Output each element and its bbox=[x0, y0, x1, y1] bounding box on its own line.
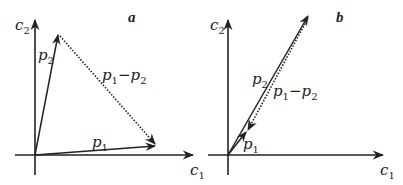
panel-a-p2-label: p2 bbox=[38, 46, 54, 66]
panel-a-c1-label: c1 bbox=[190, 161, 205, 181]
panel-b-p2-label: p2 bbox=[252, 70, 268, 90]
panel-b-p1-minus-p2-label: p1−p2 bbox=[273, 82, 318, 102]
panel-a-p1-minus-p2-vector bbox=[60, 36, 155, 144]
panel-b-tag: b bbox=[336, 9, 344, 25]
panel-a: a c2 c1 p2 p1 p1−p2 bbox=[15, 9, 205, 181]
panel-b-p1-label: p1 bbox=[243, 135, 259, 155]
panel-b-c1-label: c1 bbox=[380, 161, 395, 181]
panel-a-p1-label: p1 bbox=[92, 133, 108, 153]
panel-a-p1-minus-p2-label: p1−p2 bbox=[102, 66, 147, 86]
panel-a-c2-label: c2 bbox=[15, 16, 30, 36]
panel-a-tag: a bbox=[128, 9, 136, 25]
vector-diagram: a c2 c1 p2 p1 p1−p2 b c2 c1 p2 p1 p1−p2 bbox=[0, 0, 403, 185]
panel-b: b c2 c1 p2 p1 p1−p2 bbox=[208, 9, 395, 181]
panel-b-c2-label: c2 bbox=[210, 16, 225, 36]
